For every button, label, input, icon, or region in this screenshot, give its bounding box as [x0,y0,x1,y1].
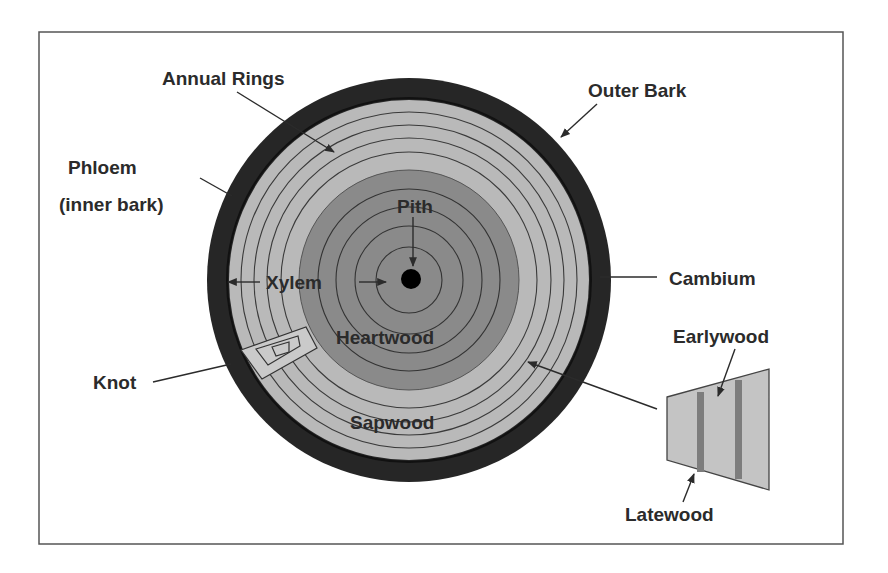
label-latewood: Latewood [625,504,714,525]
label-outer-bark: Outer Bark [588,80,687,101]
label-earlywood: Earlywood [673,326,769,347]
label-knot: Knot [93,372,137,393]
label-phloem: Phloem [68,157,137,178]
label-pith: Pith [397,196,433,217]
pith-dot [401,269,421,289]
label-sapwood: Sapwood [350,412,434,433]
latewood-band [735,380,742,479]
label-annual-rings: Annual Rings [162,68,284,89]
tree-cross-section-diagram: Annual Rings Outer Bark Phloem (inner ba… [0,0,888,573]
label-phloem-inner-bark: (inner bark) [59,194,164,215]
latewood-band [697,392,704,472]
label-cambium: Cambium [669,268,756,289]
label-heartwood: Heartwood [336,327,434,348]
label-xylem: Xylem [266,272,322,293]
